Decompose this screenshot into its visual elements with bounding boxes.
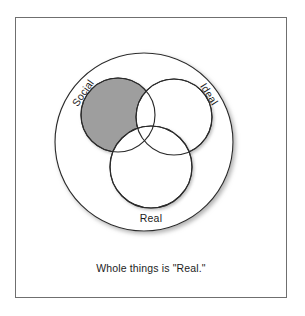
- figure-root: Social Ideal Real Whole things is "Real.…: [0, 0, 305, 316]
- figure-frame: [15, 17, 287, 298]
- figure-caption: Whole things is "Real.": [96, 262, 206, 274]
- caption-area: Whole things is "Real.": [15, 258, 287, 276]
